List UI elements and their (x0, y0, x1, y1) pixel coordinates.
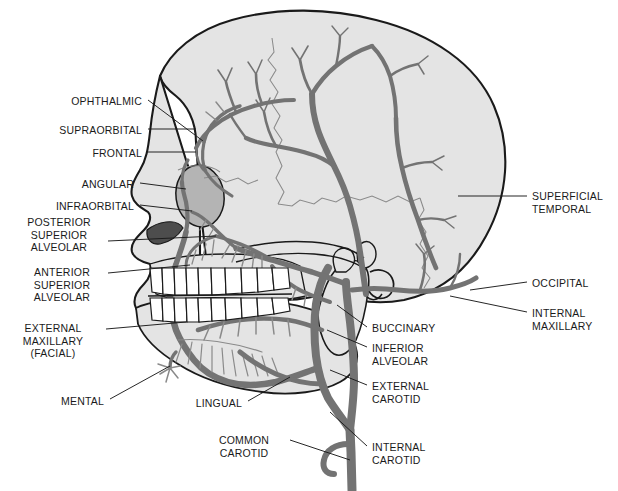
label-line: ALVEOLAR (22, 291, 102, 304)
common-carotid-artery (350, 430, 352, 490)
label-line: TEMPORAL (532, 203, 603, 216)
label-line: SUPERIOR (22, 279, 102, 292)
label-line: INTERNAL (372, 441, 426, 454)
label-posterior-superior-alveolar: POSTERIORSUPERIORALVEOLAR (16, 216, 102, 254)
label-line: SUPERIOR (16, 229, 102, 242)
label-line: CAROTID (204, 447, 284, 460)
label-line: CAROTID (372, 393, 429, 406)
label-anterior-superior-alveolar: ANTERIORSUPERIORALVEOLAR (22, 266, 102, 304)
label-lingual: LINGUAL (0, 397, 242, 410)
diagram-canvas: OPHTHALMICSUPRAORBITALFRONTALANGULARINFR… (0, 0, 618, 491)
label-line: OCCIPITAL (532, 277, 588, 290)
label-line: ANGULAR (0, 178, 134, 191)
label-line: SUPRAORBITAL (0, 124, 142, 137)
label-line: EXTERNAL (6, 322, 100, 335)
label-line: INFRAORBITAL (0, 200, 134, 213)
label-line: INFERIOR (372, 342, 428, 355)
leader-occipital (470, 282, 527, 290)
label-line: MAXILLARY (532, 320, 593, 333)
label-ophthalmic: OPHTHALMIC (0, 95, 142, 108)
label-occipital: OCCIPITAL (532, 277, 588, 290)
label-internal-maxillary: INTERNALMAXILLARY (532, 307, 593, 332)
label-infraorbital: INFRAORBITAL (0, 200, 134, 213)
leader-mental (110, 366, 170, 399)
dentition (148, 268, 292, 322)
label-line: POSTERIOR (16, 216, 102, 229)
label-line: EXTERNAL (372, 380, 429, 393)
label-common-carotid: COMMONCAROTID (204, 434, 284, 459)
label-line: ALVEOLAR (372, 355, 428, 368)
label-external-carotid: EXTERNALCAROTID (372, 380, 429, 405)
label-internal-carotid: INTERNALCAROTID (372, 441, 426, 466)
label-line: ANTERIOR (22, 266, 102, 279)
label-line: INTERNAL (532, 307, 593, 320)
label-superficial-temporal: SUPERFICIALTEMPORAL (532, 190, 603, 215)
upper-teeth (150, 268, 290, 295)
label-line: SUPERFICIAL (532, 190, 603, 203)
leader-internal-maxillary (450, 296, 527, 312)
label-line: MAXILLARY (6, 335, 100, 348)
label-line: BUCCINARY (372, 322, 435, 335)
label-line: LINGUAL (0, 397, 242, 410)
label-external-maxillary-facial: EXTERNALMAXILLARY(FACIAL) (6, 322, 100, 360)
label-line: FRONTAL (0, 147, 142, 160)
label-line: CAROTID (372, 454, 426, 467)
label-line: COMMON (204, 434, 284, 447)
label-inferior-alveolar: INFERIORALVEOLAR (372, 342, 428, 367)
superior-thyroid-artery (323, 444, 348, 474)
label-supraorbital: SUPRAORBITAL (0, 124, 142, 137)
label-line: (FACIAL) (6, 347, 100, 360)
label-angular: ANGULAR (0, 178, 134, 191)
label-buccinary: BUCCINARY (372, 322, 435, 335)
label-frontal: FRONTAL (0, 147, 142, 160)
label-line: ALVEOLAR (16, 241, 102, 254)
label-line: OPHTHALMIC (0, 95, 142, 108)
